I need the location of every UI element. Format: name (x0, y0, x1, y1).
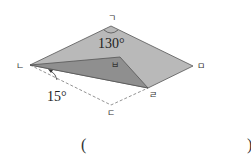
vertex-label-mieum: ㅁ (197, 61, 205, 71)
vertex-label-rieul: ㄹ (149, 90, 157, 100)
vertex-label-bieup: ㅂ (111, 60, 119, 70)
angle-pointer-15 (51, 71, 57, 80)
angle-label-130: 130° (98, 36, 125, 51)
vertex-label-giyeok: ㄱ (108, 13, 116, 23)
angle-label-15: 15° (47, 89, 67, 104)
folded-figure-diagram: ㄱ ㄴ ㄷ ㄹ ㅁ ㅂ 130° 15° ( ) (0, 0, 251, 159)
answer-close-paren: ) (247, 136, 251, 154)
vertex-label-digeut: ㄷ (107, 108, 115, 118)
answer-open-paren: ( (81, 136, 86, 154)
vertex-label-nieun: ㄴ (16, 61, 24, 71)
